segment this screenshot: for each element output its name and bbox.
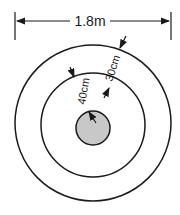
gap-outer-arrow-in-icon [120,36,126,48]
width-label: 1.8m [74,13,105,29]
target-diagram: 1.8m 30cm 40cm [0,0,180,215]
gap-inner-arrow-in-icon [70,67,74,77]
gap-inner-label: 40cm [75,77,91,106]
center-disc [76,111,110,145]
gap-outer-arrow-out-icon [104,88,109,98]
gap-outer-label: 30cm [102,53,122,82]
